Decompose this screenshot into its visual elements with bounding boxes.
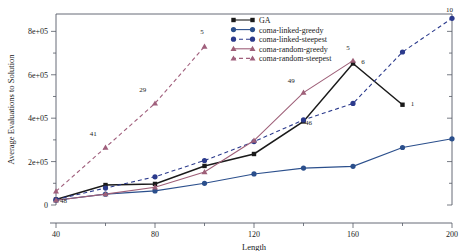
legend-item-GA: GA [231,16,270,25]
data-point-marker [250,27,255,32]
legend-item-coma-linked-steepest: coma-linked-steepest [231,35,328,44]
data-point-marker [231,18,235,22]
x-tick-label: 160 [347,230,359,239]
legend-label: GA [259,16,271,25]
data-point-marker [202,164,206,168]
legend-item-coma-linked-greedy: coma-linked-greedy [231,26,324,35]
average-evaluations-line-chart: 02e+054e+056e+058e+054080120160200Length… [0,0,463,251]
legend-item-coma-random-steepest: coma-random-steepest [231,54,333,63]
data-annotation: 41 [90,130,98,138]
data-annotation: 29 [139,86,147,94]
legend-label: coma-random-steepest [259,54,332,63]
y-axis-title: Average Evaluations to Solution [6,54,16,165]
data-annotation: 5 [346,44,350,52]
y-tick-label: 6e+05 [28,71,48,80]
legend-label: coma-random-greedy [259,45,328,54]
x-tick-label: 40 [52,230,60,239]
series-line [56,47,205,192]
series-line [56,61,353,201]
data-point-marker [231,27,236,32]
data-point-marker [152,174,157,179]
x-axis-title: Length [242,242,267,251]
y-tick-label: 4e+05 [28,114,48,123]
data-point-marker [202,158,207,163]
data-point-marker [250,18,254,22]
data-point-marker [350,101,355,106]
data-point-marker [350,58,356,63]
chart-container: 02e+054e+056e+058e+054080120160200Length… [0,0,463,251]
data-point-marker [350,164,355,169]
data-point-marker [202,169,208,174]
data-point-marker [103,144,109,149]
y-tick-label: 8e+05 [28,27,48,36]
data-point-marker [301,166,306,171]
data-annotation: 5 [200,28,204,36]
data-annotation: 1 [411,100,415,108]
y-tick-label: 0 [44,201,48,210]
x-tick-label: 120 [248,230,260,239]
legend-item-coma-random-greedy: coma-random-greedy [231,45,328,54]
data-point-marker [202,181,207,186]
y-tick-label: 2e+05 [28,158,48,167]
data-point-marker [449,136,454,141]
data-point-marker [252,152,256,156]
data-point-marker [400,145,405,150]
data-annotation: 10 [446,6,454,14]
x-tick-label: 80 [151,230,159,239]
data-point-marker [251,171,256,176]
series-line [56,139,452,200]
data-annotation: 49 [288,77,296,85]
data-point-marker [301,90,307,95]
data-annotation: 46 [305,119,313,127]
legend-label: coma-linked-steepest [259,35,328,44]
data-point-marker [400,49,405,54]
x-tick-label: 200 [446,230,458,239]
data-point-marker [250,37,255,42]
legend-label: coma-linked-greedy [259,26,323,35]
data-annotation: 48 [60,197,68,205]
data-annotation: 6 [361,58,365,66]
data-point-marker [202,44,208,49]
series-coma-random-steepest [53,44,208,194]
series-GA [54,61,405,201]
data-point-marker [250,55,256,60]
data-point-marker [231,37,236,42]
data-point-marker [400,103,404,107]
data-point-marker [103,185,108,190]
data-point-marker [449,16,454,21]
